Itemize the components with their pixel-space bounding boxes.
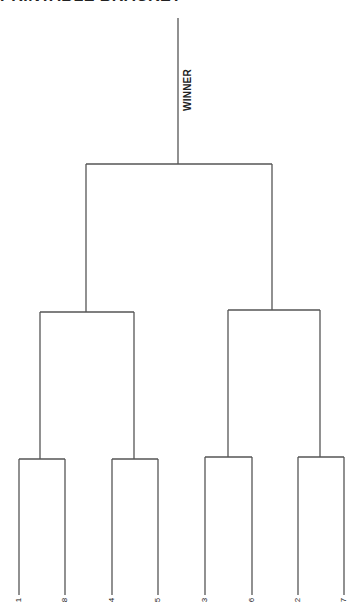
seed-label-1: 1 bbox=[14, 594, 24, 606]
seed-label-3: 3 bbox=[200, 594, 210, 606]
seed-label-4: 4 bbox=[107, 594, 117, 606]
seed-label-7: 7 bbox=[339, 594, 349, 606]
seed-label-8: 8 bbox=[60, 594, 70, 606]
seed-label-2: 2 bbox=[293, 594, 303, 606]
bracket-diagram bbox=[0, 0, 357, 608]
winner-label: WINNER bbox=[182, 65, 194, 115]
seed-label-6: 6 bbox=[247, 594, 257, 606]
seed-label-5: 5 bbox=[153, 594, 163, 606]
